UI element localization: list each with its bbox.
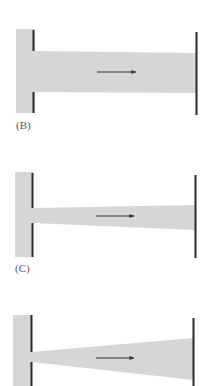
flow-diagram: (B)(C): [0, 0, 208, 386]
reservoir-block: [16, 29, 35, 113]
panel-c: (C): [15, 172, 196, 275]
reservoir-block: [15, 172, 33, 257]
panel-label: (B): [16, 119, 31, 132]
reservoir-block: [13, 315, 32, 386]
flow-channel: [33, 205, 195, 230]
panel-d: [13, 315, 194, 386]
flow-channel: [32, 338, 193, 380]
panel-b: (B): [16, 29, 197, 132]
panel-label: (C): [15, 262, 30, 275]
